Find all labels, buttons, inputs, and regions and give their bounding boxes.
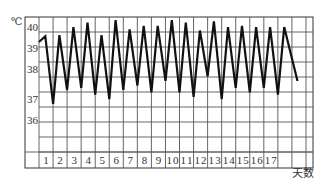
x-tick-label: 8: [142, 154, 148, 166]
x-tick-label: 11: [181, 154, 193, 166]
y-tick-label: 40: [27, 21, 39, 33]
x-tick-label: 15: [237, 154, 250, 166]
y-tick-label: 37: [27, 93, 39, 105]
x-tick-label: 14: [223, 154, 236, 166]
y-tick-label: 38: [27, 63, 39, 75]
x-axis-title: 天数: [292, 167, 314, 178]
temperature-chart: 4039383736 1234567891011121314151617 ℃ 天…: [0, 0, 330, 178]
y-axis-unit: ℃: [11, 16, 22, 27]
x-tick-label: 2: [57, 154, 63, 166]
y-axis-labels: 4039383736: [27, 21, 39, 126]
x-tick-label: 10: [166, 154, 179, 166]
x-tick-label: 13: [209, 154, 222, 166]
x-tick-label: 3: [71, 154, 77, 166]
x-axis-labels: 1234567891011121314151617: [43, 154, 277, 166]
y-tick-label: 36: [27, 114, 39, 126]
x-tick-label: 12: [195, 154, 207, 166]
x-tick-label: 9: [156, 154, 162, 166]
x-tick-label: 16: [251, 154, 264, 166]
x-tick-label: 1: [43, 154, 49, 166]
y-tick-label: 39: [27, 42, 39, 54]
x-tick-label: 6: [114, 154, 120, 166]
x-tick-label: 4: [85, 154, 91, 166]
x-tick-label: 5: [99, 154, 105, 166]
x-tick-label: 7: [128, 154, 134, 166]
x-tick-label: 17: [265, 154, 278, 166]
